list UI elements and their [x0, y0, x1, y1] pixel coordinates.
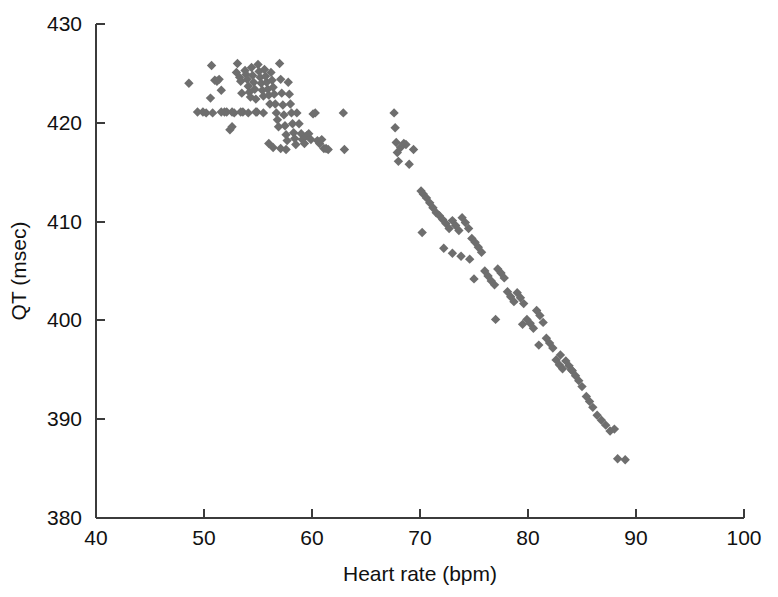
data-point-marker: [282, 136, 291, 145]
data-point-marker: [273, 115, 282, 124]
data-point-marker: [405, 160, 414, 169]
x-tick-label: 80: [516, 526, 539, 549]
plot-canvas: 405060708090100380390400410420430Heart r…: [0, 0, 778, 597]
data-point-marker: [286, 99, 295, 108]
data-point-marker: [285, 89, 294, 98]
data-markers-group: [184, 59, 630, 465]
y-tick-label: 410: [47, 210, 82, 233]
data-point-marker: [208, 108, 217, 117]
y-tick-label: 430: [47, 12, 82, 35]
data-point-marker: [278, 100, 287, 109]
data-point-marker: [456, 251, 465, 260]
data-point-marker: [206, 93, 215, 102]
data-point-marker: [448, 249, 457, 258]
data-point-marker: [469, 274, 478, 283]
data-point-marker: [409, 145, 418, 154]
data-point-marker: [207, 61, 216, 70]
data-point-marker: [394, 157, 403, 166]
y-axis-title: QT (msec): [7, 222, 30, 321]
x-tick-label: 50: [192, 526, 215, 549]
axes-group: [96, 24, 744, 518]
x-tick-label: 40: [84, 526, 107, 549]
data-point-marker: [390, 123, 399, 132]
data-point-marker: [272, 108, 281, 117]
data-point-marker: [291, 140, 300, 149]
data-point-marker: [389, 108, 398, 117]
data-point-marker: [534, 340, 543, 349]
y-tick-label: 380: [47, 506, 82, 529]
data-point-marker: [184, 79, 193, 88]
data-point-marker: [294, 119, 303, 128]
data-point-marker: [279, 110, 288, 119]
scatter-plot-figure: 405060708090100380390400410420430Heart r…: [0, 0, 778, 597]
x-axis-title: Heart rate (bpm): [343, 562, 497, 585]
data-point-marker: [439, 244, 448, 253]
x-tick-label: 100: [726, 526, 761, 549]
x-tick-label: 70: [408, 526, 431, 549]
data-point-marker: [233, 59, 242, 68]
axis-labels-group: 405060708090100380390400410420430Heart r…: [7, 12, 762, 585]
data-point-marker: [251, 107, 260, 116]
data-point-marker: [292, 108, 301, 117]
data-point-marker: [217, 85, 226, 94]
x-tick-label: 90: [624, 526, 647, 549]
y-tick-label: 420: [47, 111, 82, 134]
data-point-marker: [271, 99, 280, 108]
data-point-marker: [621, 455, 630, 464]
data-point-marker: [340, 145, 349, 154]
data-point-marker: [275, 59, 284, 68]
data-point-marker: [237, 88, 246, 97]
data-point-marker: [417, 228, 426, 237]
data-point-marker: [465, 254, 474, 263]
data-point-marker: [277, 88, 286, 97]
data-point-marker: [491, 315, 500, 324]
data-point-marker: [339, 108, 348, 117]
data-point-marker: [259, 108, 268, 117]
data-point-marker: [613, 454, 622, 463]
y-tick-label: 400: [47, 308, 82, 331]
y-tick-label: 390: [47, 407, 82, 430]
data-point-marker: [280, 121, 289, 130]
x-tick-label: 60: [300, 526, 323, 549]
